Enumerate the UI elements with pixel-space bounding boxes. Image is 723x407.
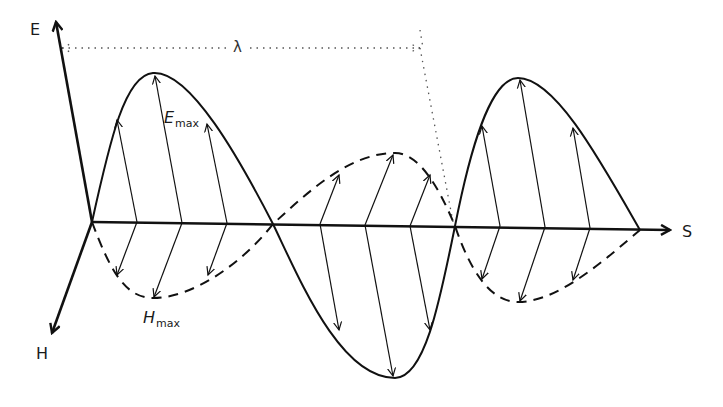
s-axis-label: S [682,224,692,240]
h-axis-label: H [36,346,48,362]
e-axis [56,22,92,222]
wavelength-label: λ [233,40,242,55]
electric-field-vectors-negative [320,224,430,376]
h-axis [52,222,92,333]
e-axis-label: E [30,22,40,38]
electric-field-vectors [117,76,590,228]
e-max-main: E [164,108,174,127]
em-wave-diagram [0,0,723,407]
magnetic-field-vectors [117,222,590,301]
h-max-sub: max [156,317,180,330]
magnetic-field-vectors-positive [320,155,430,226]
e-max-sub: max [175,117,199,130]
h-max-label: Hmax [143,310,180,329]
e-max-label: Emax [164,110,199,129]
s-axis [92,222,670,230]
h-max-main: H [143,308,155,327]
